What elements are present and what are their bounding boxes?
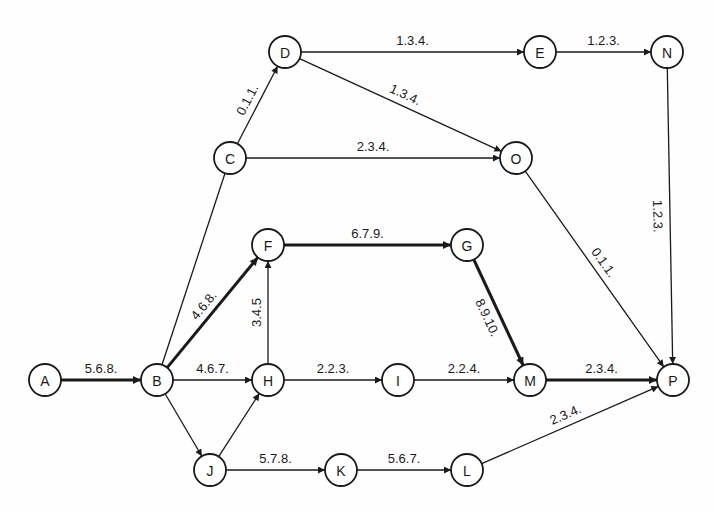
duration-estimate-label: 2.2.3. [317,361,350,376]
edges-layer: 5.6.8.0.1.1.1.3.4.1.2.3.1.3.4.2.3.4.0.1.… [61,33,673,470]
edge-m-p: 2.3.4. [546,361,657,380]
node-label: C [225,151,235,167]
activity-arrow [667,68,672,364]
event-node-p: P [657,364,689,396]
edge-h-f: 3.4.5 [249,261,268,364]
event-node-l: L [451,454,483,486]
activity-arrow [300,59,502,152]
event-node-o: O [500,142,532,174]
edge-j-k: 5.7.8. [226,451,325,470]
duration-estimate-label: 2.3.4. [585,361,618,376]
activity-arrow [219,393,260,456]
event-node-d: D [269,36,301,68]
duration-estimate-label: 0.1.1. [588,245,619,280]
duration-estimate-label: 2.2.4. [448,361,481,376]
duration-estimate-label: 0.1.1. [233,82,261,118]
event-node-f: F [252,229,284,261]
node-label: F [264,238,273,254]
edge-b-j [165,394,202,456]
event-node-k: K [325,454,357,486]
edge-f-g: 6.7.9. [284,226,451,245]
nodes-layer: ABCDENOFGHIMPJKL [29,36,689,486]
event-node-i: I [382,364,414,396]
duration-estimate-label: 1.3.4. [387,81,423,108]
node-label: N [662,45,672,61]
edge-d-o: 1.3.4. [300,59,502,152]
duration-estimate-label: 5.7.8. [259,451,292,466]
node-label: M [524,373,536,389]
event-node-e: E [524,36,556,68]
node-label: B [152,373,161,389]
duration-estimate-label: 4.6.7. [196,361,229,376]
event-node-b: B [141,364,173,396]
duration-estimate-label: 2.3.4. [547,401,583,428]
edge-i-m: 2.2.4. [414,361,514,380]
node-label: H [263,373,273,389]
edge-n-p: 1.2.3. [650,68,673,364]
duration-estimate-label: 5.6.8. [85,361,118,376]
edge-c-o: 2.3.4. [246,139,500,158]
duration-estimate-label: 1.2.3. [650,200,666,233]
activity-arrow [165,394,202,456]
event-node-n: N [651,36,683,68]
event-node-g: G [451,229,483,261]
event-node-c: C [214,142,246,174]
node-label: P [668,373,677,389]
node-label: L [463,463,471,479]
edge-k-l: 5.6.7. [357,451,451,470]
edge-h-i: 2.2.3. [284,361,382,380]
activity-arrow [525,171,664,367]
edge-e-n: 1.2.3. [556,33,651,52]
edge-b-f: 4.6.8. [167,257,258,367]
duration-estimate-label: 4.6.8. [187,288,219,323]
critical-path-arrow [167,257,258,367]
node-label: I [396,373,400,389]
edge-g-m: 8.9.10. [472,259,523,365]
duration-estimate-label: 1.2.3. [587,33,620,48]
duration-estimate-label: 1.3.4. [396,33,429,48]
node-label: A [40,373,50,389]
edge-b-h: 4.6.7. [173,361,252,380]
edge-c-d: 0.1.1. [233,66,277,144]
node-label: E [535,45,544,61]
duration-estimate-label: 6.7.9. [351,226,384,241]
edge-l-p: 2.3.4. [482,386,659,463]
activity-arrow [482,386,659,463]
event-node-h: H [252,364,284,396]
duration-estimate-label: 5.6.7. [388,451,421,466]
node-label: J [207,463,214,479]
edge-j-h [219,393,260,456]
edge-o-p: 0.1.1. [525,171,664,367]
node-label: O [511,151,522,167]
node-label: D [280,45,290,61]
edge-a-b: 5.6.8. [61,361,141,380]
event-node-a: A [29,364,61,396]
duration-estimate-label: 3.4.5 [249,298,264,327]
node-label: G [462,238,473,254]
event-node-m: M [514,364,546,396]
event-node-j: J [194,454,226,486]
node-label: K [336,463,346,479]
duration-estimate-label: 2.3.4. [357,139,390,154]
pert-network-diagram: 5.6.8.0.1.1.1.3.4.1.2.3.1.3.4.2.3.4.0.1.… [0,0,714,513]
edge-d-e: 1.3.4. [301,33,524,52]
duration-estimate-label: 8.9.10. [472,296,502,338]
